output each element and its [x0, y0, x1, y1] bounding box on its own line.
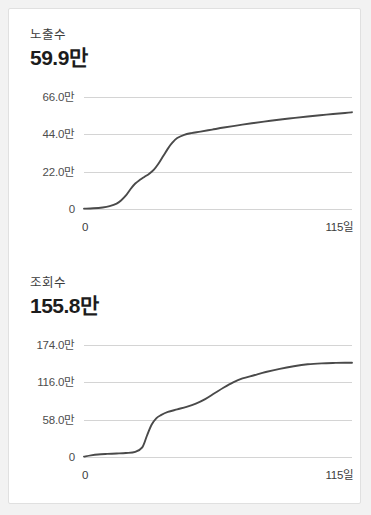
panel-views: 조회수 155.8만 058.0만116.0만174.0만0115일	[9, 257, 360, 504]
metric-label-views: 조회수	[30, 275, 99, 291]
panel-impressions: 노출수 59.9만 022.0만44.0만66.0만0115일	[9, 9, 360, 257]
metric-value-impressions: 59.9만	[30, 45, 87, 71]
y-axis-tick-label: 0	[69, 203, 75, 215]
metric-label-impressions: 노출수	[30, 27, 87, 43]
chart-views: 058.0만116.0만174.0만0115일	[9, 335, 361, 495]
panel-views-header: 조회수 155.8만	[30, 275, 99, 319]
y-axis-tick-label: 116.0만	[37, 376, 75, 388]
panel-impressions-header: 노출수 59.9만	[30, 27, 87, 71]
chart-impressions-svg: 022.0만44.0만66.0만0115일	[9, 87, 361, 247]
y-axis-tick-label: 58.0만	[43, 414, 76, 426]
x-axis-tick-label: 0	[82, 221, 88, 233]
y-axis-tick-label: 44.0만	[43, 128, 76, 140]
x-axis-tick-label: 115일	[325, 220, 354, 233]
y-axis-tick-label: 66.0만	[43, 91, 76, 103]
x-axis-tick-label: 0	[82, 469, 88, 481]
y-axis-tick-label: 22.0만	[43, 166, 76, 178]
chart-impressions: 022.0만44.0만66.0만0115일	[9, 87, 361, 247]
metric-value-views: 155.8만	[30, 293, 99, 319]
chart-data-line	[84, 112, 352, 208]
y-axis-tick-label: 0	[69, 451, 75, 463]
chart-views-svg: 058.0만116.0만174.0만0115일	[9, 335, 361, 495]
chart-data-line	[84, 363, 352, 457]
y-axis-tick-label: 174.0만	[36, 339, 75, 351]
analytics-card: 노출수 59.9만 022.0만44.0만66.0만0115일 조회수 155.…	[8, 8, 361, 504]
x-axis-tick-label: 115일	[325, 468, 354, 481]
